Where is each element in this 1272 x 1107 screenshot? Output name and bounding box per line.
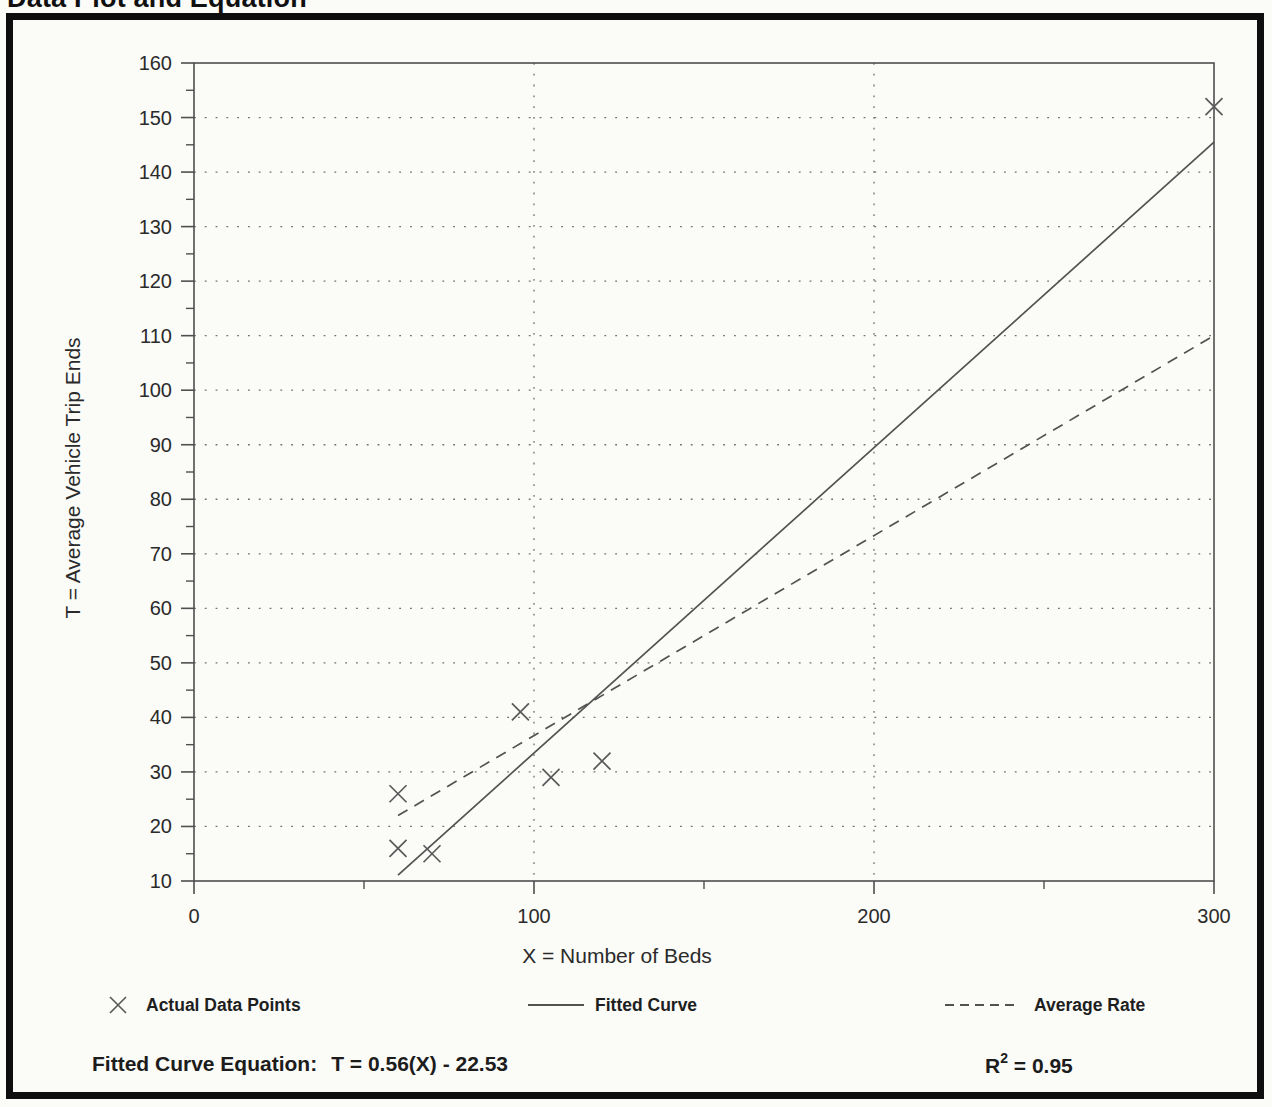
r2-sup: 2 [1000, 1050, 1008, 1066]
legend-label: Actual Data Points [146, 995, 301, 1016]
y-tick-label: 150 [139, 107, 172, 129]
fitted-curve-line [398, 142, 1214, 875]
y-tick-label: 10 [150, 870, 172, 892]
y-tick-label: 60 [150, 597, 172, 619]
fitted-curve-equation: Fitted Curve Equation:T = 0.56(X) - 22.5… [92, 1052, 508, 1076]
solid-line-icon [527, 1001, 585, 1009]
equation-label: Fitted Curve Equation: [92, 1052, 317, 1075]
x-tick-label: 200 [857, 905, 890, 927]
equation-value: T = 0.56(X) - 22.53 [331, 1052, 508, 1075]
y-tick-label: 20 [150, 815, 172, 837]
legend-label: Average Rate [1034, 995, 1145, 1016]
data-point-marker [512, 703, 529, 720]
plot-box [194, 63, 1214, 881]
legend-item-average-rate: Average Rate [944, 992, 1145, 1018]
average-rate-line [398, 336, 1214, 816]
y-tick-label: 40 [150, 706, 172, 728]
legend-label: Fitted Curve [595, 995, 697, 1016]
y-tick-label: 30 [150, 761, 172, 783]
y-tick-label: 80 [150, 488, 172, 510]
y-tick-label: 90 [150, 434, 172, 456]
x-marker-icon [106, 993, 130, 1017]
x-axis-title: X = Number of Beds [432, 944, 802, 968]
y-tick-label: 130 [139, 216, 172, 238]
data-point-marker [390, 785, 407, 802]
legend-item-fitted-curve: Fitted Curve [527, 992, 697, 1018]
y-tick-label: 100 [139, 379, 172, 401]
legend-item-actual-data-points: Actual Data Points [106, 992, 301, 1018]
r-squared-value: R2 = 0.95 [985, 1052, 1073, 1078]
r2-base: R [985, 1054, 1000, 1077]
x-tick-label: 300 [1197, 905, 1230, 927]
y-tick-label: 140 [139, 161, 172, 183]
y-tick-label: 50 [150, 652, 172, 674]
data-point-marker [594, 753, 611, 770]
data-point-marker [424, 845, 441, 862]
y-axis-title: T = Average Vehicle Trip Ends [61, 298, 87, 658]
data-point-marker [390, 840, 407, 857]
dashed-line-icon [944, 1001, 1018, 1009]
y-tick-label: 70 [150, 543, 172, 565]
x-tick-label: 100 [517, 905, 550, 927]
y-tick-label: 160 [139, 52, 172, 74]
r2-rest: = 0.95 [1008, 1054, 1073, 1077]
x-tick-label: 0 [188, 905, 199, 927]
y-tick-label: 110 [140, 325, 172, 347]
scatter-plot: 1020304050607080901001101201301401501600… [0, 0, 1272, 1107]
y-tick-label: 120 [139, 270, 172, 292]
